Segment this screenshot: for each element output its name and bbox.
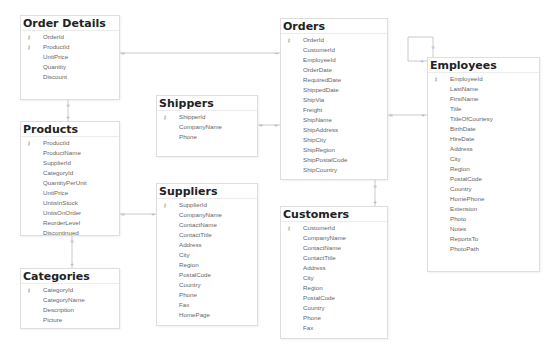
field-row[interactable]: PostalCode	[281, 293, 387, 303]
field-row[interactable]: CategoryId	[21, 168, 119, 178]
field-row[interactable]: UnitsOnOrder	[21, 208, 119, 218]
field-name: PostalCode	[179, 271, 211, 278]
field-row[interactable]: ContactName	[281, 243, 387, 253]
field-row[interactable]: Title	[428, 104, 539, 114]
field-row[interactable]: ProductName	[21, 148, 119, 158]
field-row[interactable]: Country	[281, 303, 387, 313]
field-name: PostalCode	[303, 294, 335, 301]
field-row[interactable]: Picture	[21, 315, 119, 325]
field-row[interactable]: PhotoPath	[428, 244, 539, 254]
field-row[interactable]: ReportsTo	[428, 234, 539, 244]
field-row[interactable]: QuantityPerUnit	[21, 178, 119, 188]
field-row[interactable]: EmployeeId	[281, 55, 387, 65]
field-row[interactable]: Address	[281, 263, 387, 273]
field-row[interactable]: HomePhone	[428, 194, 539, 204]
field-name: ShipAddress	[303, 126, 338, 133]
field-row[interactable]: City	[428, 154, 539, 164]
field-row[interactable]: Freight	[281, 105, 387, 115]
svg-text:+: +	[373, 199, 377, 205]
field-row[interactable]: Region	[281, 283, 387, 293]
field-name: Country	[303, 304, 325, 311]
field-row[interactable]: Description	[21, 305, 119, 315]
field-row[interactable]: City	[157, 250, 257, 260]
table-title: Shippers	[157, 96, 257, 111]
field-row[interactable]: SupplierId	[21, 158, 119, 168]
field-row[interactable]: UnitPrice	[21, 188, 119, 198]
field-row[interactable]: Discontinued	[21, 228, 119, 238]
field-row[interactable]: Address	[428, 144, 539, 154]
field-row[interactable]: Notes	[428, 224, 539, 234]
field-row[interactable]: Phone	[157, 290, 257, 300]
field-row[interactable]: Extension	[428, 204, 539, 214]
field-row[interactable]: CompanyName	[281, 233, 387, 243]
field-row[interactable]: Phone	[281, 313, 387, 323]
field-row[interactable]: ⚷ProductId	[21, 138, 119, 148]
field-row[interactable]: Country	[157, 280, 257, 290]
field-row[interactable]: CustomerId	[281, 45, 387, 55]
field-row[interactable]: Photo	[428, 214, 539, 224]
svg-text:∞: ∞	[70, 238, 74, 244]
field-name: UnitPrice	[43, 53, 68, 60]
field-row[interactable]: ShipAddress	[281, 125, 387, 135]
field-row[interactable]: Fax	[157, 300, 257, 310]
field-row[interactable]: BirthDate	[428, 124, 539, 134]
field-row[interactable]: ⚷OrderId	[281, 35, 387, 45]
field-row[interactable]: Discount	[21, 72, 119, 82]
field-row[interactable]: FirstName	[428, 94, 539, 104]
table-products[interactable]: Products⚷ProductIdProductNameSupplierIdC…	[20, 121, 120, 236]
field-row[interactable]: ⚷CustomerId	[281, 223, 387, 233]
field-row[interactable]: ContactName	[157, 220, 257, 230]
table-categories[interactable]: Categories⚷CategoryIdCategoryNameDescrip…	[20, 268, 120, 329]
field-row[interactable]: ShipCountry	[281, 165, 387, 175]
field-row[interactable]: OrderDate	[281, 65, 387, 75]
field-row[interactable]: Phone	[157, 132, 257, 142]
field-row[interactable]: TitleOfCourtesy	[428, 114, 539, 124]
field-name: CompanyName	[179, 211, 222, 218]
table-customers[interactable]: Customers⚷CustomerIdCompanyNameContactNa…	[280, 206, 388, 339]
table-order-details[interactable]: Order Details⚷OrderId⚷ProductIdUnitPrice…	[20, 15, 120, 100]
field-row[interactable]: PostalCode	[157, 270, 257, 280]
field-row[interactable]: PostalCode	[428, 174, 539, 184]
field-row[interactable]: CompanyName	[157, 122, 257, 132]
field-row[interactable]: ShipCity	[281, 135, 387, 145]
field-name: Fax	[303, 324, 313, 331]
field-row[interactable]: ⚷ShipperId	[157, 112, 257, 122]
field-name: City	[303, 274, 314, 281]
field-row[interactable]: ShipPostalCode	[281, 155, 387, 165]
field-row[interactable]: UnitPrice	[21, 52, 119, 62]
table-orders[interactable]: Orders⚷OrderIdCustomerIdEmployeeIdOrderD…	[280, 18, 388, 180]
field-name: Discount	[43, 73, 67, 80]
field-row[interactable]: HomePage	[157, 310, 257, 320]
field-row[interactable]: Quantity	[21, 62, 119, 72]
field-row[interactable]: Region	[157, 260, 257, 270]
field-row[interactable]: ShipRegion	[281, 145, 387, 155]
field-row[interactable]: ShipName	[281, 115, 387, 125]
field-row[interactable]: Address	[157, 240, 257, 250]
field-row[interactable]: City	[281, 273, 387, 283]
table-shippers[interactable]: Shippers⚷ShipperIdCompanyNamePhone	[156, 95, 258, 157]
field-row[interactable]: ContactTitle	[157, 230, 257, 240]
field-name: Discontinued	[43, 229, 79, 236]
field-row[interactable]: LastName	[428, 84, 539, 94]
field-name: FirstName	[450, 95, 479, 102]
field-row[interactable]: ⚷SupplierId	[157, 200, 257, 210]
field-row[interactable]: Region	[428, 164, 539, 174]
field-row[interactable]: ⚷EmployeeId	[428, 74, 539, 84]
field-row[interactable]: HireDate	[428, 134, 539, 144]
field-row[interactable]: ⚷OrderId	[21, 32, 119, 42]
field-name: OrderId	[43, 33, 64, 40]
field-row[interactable]: Fax	[281, 323, 387, 333]
field-row[interactable]: UnitsInStock	[21, 198, 119, 208]
field-row[interactable]: ShippedDate	[281, 85, 387, 95]
field-row[interactable]: ⚷CategoryId	[21, 285, 119, 295]
field-row[interactable]: CategoryName	[21, 295, 119, 305]
table-suppliers[interactable]: Suppliers⚷SupplierIdCompanyNameContactNa…	[156, 183, 258, 326]
field-row[interactable]: ⚷ProductId	[21, 42, 119, 52]
field-row[interactable]: Country	[428, 184, 539, 194]
field-row[interactable]: ShipVia	[281, 95, 387, 105]
field-row[interactable]: CompanyName	[157, 210, 257, 220]
field-row[interactable]: ContactTitle	[281, 253, 387, 263]
field-row[interactable]: RequiredDate	[281, 75, 387, 85]
table-employees[interactable]: Employees⚷EmployeeIdLastNameFirstNameTit…	[427, 57, 540, 272]
field-row[interactable]: ReorderLevel	[21, 218, 119, 228]
